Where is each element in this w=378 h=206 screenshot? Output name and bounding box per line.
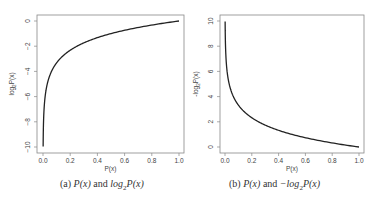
x-tick-label: 0.6 <box>301 157 310 164</box>
y-tick-label: 4 <box>207 94 214 98</box>
x-tick-label: 0.2 <box>247 157 256 164</box>
plot-a: 0.00.20.40.60.81.0−10−8−6−4−20P(x)log2P(… <box>8 15 184 173</box>
x-tick-label: 0.2 <box>66 157 75 164</box>
x-tick-label: 0.6 <box>120 157 129 164</box>
plot-b: 0.00.20.40.60.81.00246810P(x)-log2P(x) <box>192 15 364 173</box>
y-tick-label: 0 <box>24 19 31 23</box>
y-tick-label: 2 <box>207 120 214 124</box>
y-axis-label: -log2P(x) <box>192 71 201 96</box>
y-tick-label: −4 <box>24 67 31 75</box>
y-axis-label: log2P(x) <box>8 72 17 95</box>
y-tick-label: 6 <box>207 69 214 73</box>
y-tick-label: 0 <box>207 145 214 149</box>
plot-frame <box>37 15 184 153</box>
caption-a: (a) P(x) and log2P(x) <box>60 178 144 192</box>
y-tick-label: −6 <box>24 93 31 101</box>
x-tick-label: 1.0 <box>354 157 363 164</box>
caption-b: (b) P(x) and −log2P(x) <box>229 178 320 192</box>
y-tick-label: −2 <box>24 42 31 50</box>
y-tick-label: −10 <box>24 141 31 152</box>
x-tick-label: 0.4 <box>274 157 283 164</box>
x-tick-label: 0.4 <box>93 157 102 164</box>
x-axis-label: P(x) <box>105 165 117 173</box>
plot-frame <box>220 15 364 153</box>
x-tick-label: 0.8 <box>147 157 156 164</box>
x-tick-label: 0.0 <box>220 157 229 164</box>
y-tick-label: −8 <box>24 118 31 126</box>
data-line <box>43 21 179 147</box>
figure: 0.00.20.40.60.81.0−10−8−6−4−20P(x)log2P(… <box>0 0 378 206</box>
x-tick-label: 0.8 <box>328 157 337 164</box>
y-tick-label: 8 <box>207 44 214 48</box>
data-line <box>225 21 359 147</box>
x-tick-label: 1.0 <box>174 157 183 164</box>
x-axis-label: P(x) <box>286 165 298 173</box>
y-tick-label: 10 <box>207 17 214 25</box>
x-tick-label: 0.0 <box>38 157 47 164</box>
